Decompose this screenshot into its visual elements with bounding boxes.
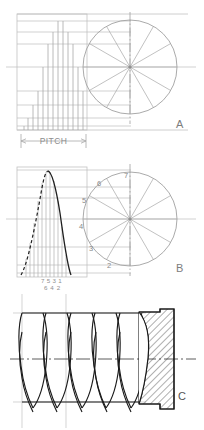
circle-point-2: 2 — [107, 261, 111, 270]
figure-c: C — [0, 292, 204, 430]
figure-b-ordinates — [26, 172, 66, 277]
circle-point-6: 6 — [97, 179, 101, 188]
figure-b: 2 3 4 5 6 7 7 5 3 1 6 4 2 B — [0, 155, 204, 295]
circle-point-4: 4 — [79, 222, 83, 231]
drawing-sheet: PITCH A — [0, 0, 204, 430]
baseline-numbers-top: 7 5 3 1 — [41, 277, 62, 284]
figure-b-curve-falling — [48, 171, 71, 275]
circle-point-7: 7 — [124, 171, 128, 180]
circle-point-3: 3 — [89, 244, 93, 253]
figure-b-label: B — [176, 262, 183, 274]
figure-a-projection-lines — [6, 21, 196, 126]
figure-b-construction-frame — [17, 167, 87, 277]
figure-c-section-boss — [139, 309, 174, 409]
figure-b-circle-point-labels: 2 3 4 5 6 7 — [79, 171, 128, 270]
figure-a-ordinates — [24, 21, 83, 130]
figure-c-label: C — [178, 390, 186, 402]
figure-a-pitch-dimension: PITCH — [21, 134, 86, 148]
baseline-numbers-bottom: 6 4 2 — [44, 284, 61, 291]
circle-point-5: 5 — [82, 196, 86, 205]
figure-b-curve-rising — [21, 171, 48, 275]
figure-a-label: A — [176, 118, 184, 130]
figure-c-thread-helices — [19, 313, 145, 412]
pitch-label: PITCH — [40, 136, 68, 146]
figure-a: PITCH A — [0, 0, 204, 150]
